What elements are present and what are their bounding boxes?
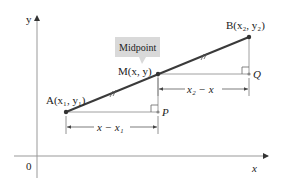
dimension-upper: x₂ − x xyxy=(158,78,249,96)
dimension-lower: x − x₁ xyxy=(66,116,158,134)
point-p xyxy=(156,110,159,113)
point-a xyxy=(64,110,68,114)
point-m-label: M(x, y) xyxy=(118,65,152,78)
point-q xyxy=(247,72,250,75)
point-b-label: B(x₂, y₂) xyxy=(226,19,265,32)
dimension-upper-label: x₂ − x xyxy=(186,83,214,95)
point-p-label: P xyxy=(161,106,169,118)
point-b xyxy=(247,35,251,39)
midpoint-diagram: y x 0 A(x₁, y₁) M(x, y) B(x₂, y₂) P Q Mi… xyxy=(0,0,286,190)
x-axis-label: x xyxy=(251,162,257,174)
dimension-lower-label: x − x₁ xyxy=(96,121,124,133)
point-m xyxy=(156,72,160,76)
midpoint-callout: Midpoint xyxy=(115,37,160,64)
point-q-label: Q xyxy=(253,68,261,80)
point-a-label: A(x₁, y₁) xyxy=(46,94,86,107)
origin-label: 0 xyxy=(26,160,32,172)
midpoint-callout-label: Midpoint xyxy=(119,42,156,53)
y-axis-label: y xyxy=(26,13,32,25)
